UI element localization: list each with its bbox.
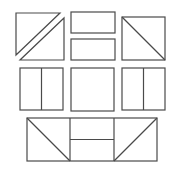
top-left-upper-triangle xyxy=(16,13,60,55)
puzzle-diagram xyxy=(0,0,176,173)
top-middle-upper-rectangle xyxy=(71,12,115,33)
middle-center-square xyxy=(71,68,114,111)
bottom-left-diagonal xyxy=(27,118,70,161)
bottom-right-diagonal xyxy=(114,118,157,161)
top-right-diagonal xyxy=(122,17,165,60)
shapes-group xyxy=(16,12,165,161)
top-middle-lower-rectangle xyxy=(71,39,115,60)
top-left-lower-triangle xyxy=(20,18,64,60)
